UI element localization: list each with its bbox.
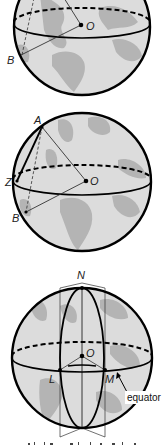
globe-2-label-O: O <box>90 175 99 187</box>
globe-3-label-equator: equator <box>127 392 162 403</box>
sphere-geometry-figure: O B A Z O B <box>0 0 164 445</box>
globe-2-label-Z: Z <box>4 176 13 188</box>
globe-1-center-point <box>79 23 84 28</box>
caption-cropped <box>0 441 164 445</box>
globe-2: A Z O B <box>4 113 151 251</box>
globe-3-center-point <box>80 354 85 359</box>
globe-2-label-B: B <box>12 212 19 224</box>
globe-3-bottom-tangent <box>60 428 105 437</box>
globe-1: O B <box>7 0 150 95</box>
globe-3-label-N: N <box>77 269 85 281</box>
globe-3-label-M: M <box>105 373 115 385</box>
globe-3-label-O: O <box>86 347 95 359</box>
globe-2-label-A: A <box>33 114 41 126</box>
globe-3: equator N O L M <box>12 269 164 437</box>
globe-3-point-M <box>103 368 107 372</box>
globe-1-label-O: O <box>86 20 95 32</box>
globe-1-label-B: B <box>7 54 14 66</box>
globe-2-point-Z <box>15 179 18 182</box>
globe-2-point-B <box>24 210 27 213</box>
globe-3-point-L <box>58 368 62 372</box>
globe-3-label-L: L <box>49 373 55 385</box>
globe-2-center-point <box>84 179 89 184</box>
